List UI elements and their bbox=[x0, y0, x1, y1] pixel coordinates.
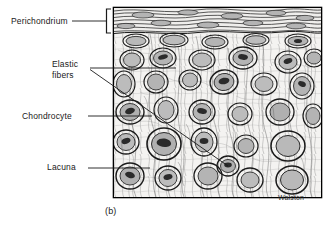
chondrocyte-group bbox=[237, 168, 263, 192]
chondrocyte-group bbox=[251, 73, 277, 95]
chondrocyte-group bbox=[276, 166, 308, 194]
panel-caption: (b) bbox=[105, 206, 116, 217]
chondrocyte-group bbox=[179, 70, 201, 90]
chondrocyte-group bbox=[123, 34, 149, 48]
label-chondrocyte: Chondrocyte bbox=[22, 111, 72, 122]
chondrocyte-group bbox=[144, 71, 168, 93]
chondrocyte-group bbox=[147, 128, 181, 160]
label-elastic-fibers-line1: Elastic bbox=[52, 59, 78, 70]
chondrocyte-group bbox=[229, 47, 257, 69]
chondrocyte-group bbox=[189, 50, 215, 70]
label-lacuna: Lacuna bbox=[47, 162, 76, 173]
chondrocyte-group bbox=[116, 163, 144, 189]
chondrocyte-group bbox=[285, 34, 311, 48]
chondrocyte-group bbox=[202, 35, 228, 49]
chondrocyte-group bbox=[243, 34, 269, 47]
chondrocyte-group bbox=[304, 49, 324, 67]
chondrocyte-group bbox=[275, 51, 301, 73]
chondrocyte-group bbox=[189, 100, 215, 124]
chondrocyte-group bbox=[266, 99, 294, 125]
chondrocyte-group bbox=[154, 97, 178, 123]
chondrocyte-group bbox=[160, 33, 188, 47]
chondrocyte-group bbox=[290, 73, 314, 99]
artist-credit: Walston bbox=[278, 193, 304, 204]
label-elastic-fibers: Elastic fibers bbox=[52, 59, 78, 80]
perichondrium-layer bbox=[114, 8, 321, 34]
chondrocyte-group bbox=[150, 48, 176, 68]
chondrocyte-group bbox=[271, 131, 305, 161]
chondrocyte-group bbox=[234, 135, 258, 157]
chondrocyte-group bbox=[228, 103, 252, 125]
chondrocyte-group bbox=[194, 163, 222, 189]
chondrocyte-group bbox=[191, 128, 217, 156]
cartilage-drawing bbox=[113, 8, 324, 197]
label-perichondrium: Perichondrium bbox=[11, 16, 68, 27]
chondrocyte-group bbox=[155, 166, 181, 190]
chondrocyte-group bbox=[116, 100, 144, 124]
chondrocyte-group bbox=[303, 104, 323, 128]
chondrocyte-group bbox=[113, 130, 139, 154]
chondrocyte-group bbox=[120, 50, 144, 70]
label-elastic-fibers-line2: fibers bbox=[52, 70, 78, 81]
